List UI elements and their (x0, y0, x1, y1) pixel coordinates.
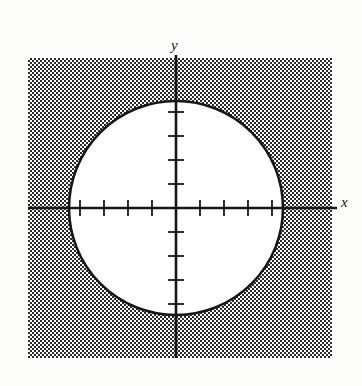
figure-container: y x (0, 0, 362, 386)
y-axis-label: y (169, 37, 178, 53)
coordinate-plane-graph: y x (0, 0, 362, 386)
x-axis-label: x (340, 194, 348, 210)
